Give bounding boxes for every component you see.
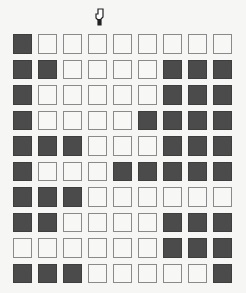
game-board-grid <box>13 34 232 283</box>
grid-cell-r5-c9[interactable] <box>213 136 232 156</box>
grid-cell-r3-c8[interactable] <box>188 85 207 105</box>
grid-cell-r8-c8[interactable] <box>188 213 207 233</box>
grid-cell-r6-c8[interactable] <box>188 162 207 182</box>
grid-cell-r5-c2[interactable] <box>38 136 57 156</box>
grid-cell-r1-c2[interactable] <box>38 34 57 54</box>
grid-cell-r6-c4[interactable] <box>88 162 107 182</box>
grid-cell-r10-c9[interactable] <box>213 264 232 284</box>
grid-cell-r6-c1[interactable] <box>13 162 32 182</box>
grid-cell-r5-c4[interactable] <box>88 136 107 156</box>
grid-cell-r7-c6[interactable] <box>138 187 157 207</box>
grid-cell-r9-c4[interactable] <box>88 238 107 258</box>
grid-cell-r9-c6[interactable] <box>138 238 157 258</box>
grid-cell-r9-c9[interactable] <box>213 238 232 258</box>
grid-cell-r6-c9[interactable] <box>213 162 232 182</box>
grid-cell-r10-c2[interactable] <box>38 264 57 284</box>
pointer-hand-icon <box>95 8 105 26</box>
grid-cell-r1-c8[interactable] <box>188 34 207 54</box>
grid-cell-r5-c1[interactable] <box>13 136 32 156</box>
grid-cell-r5-c3[interactable] <box>63 136 82 156</box>
grid-cell-r10-c5[interactable] <box>113 264 132 284</box>
grid-cell-r2-c1[interactable] <box>13 60 32 80</box>
grid-cell-r10-c3[interactable] <box>63 264 82 284</box>
grid-cell-r10-c8[interactable] <box>188 264 207 284</box>
grid-cell-r6-c6[interactable] <box>138 162 157 182</box>
grid-cell-r4-c2[interactable] <box>38 111 57 131</box>
grid-cell-r2-c4[interactable] <box>88 60 107 80</box>
grid-cell-r8-c7[interactable] <box>163 213 182 233</box>
grid-cell-r8-c4[interactable] <box>88 213 107 233</box>
grid-cell-r3-c1[interactable] <box>13 85 32 105</box>
grid-cell-r7-c8[interactable] <box>188 187 207 207</box>
grid-cell-r2-c5[interactable] <box>113 60 132 80</box>
grid-cell-r8-c1[interactable] <box>13 213 32 233</box>
grid-cell-r3-c7[interactable] <box>163 85 182 105</box>
grid-cell-r6-c7[interactable] <box>163 162 182 182</box>
grid-cell-r8-c5[interactable] <box>113 213 132 233</box>
grid-cell-r2-c6[interactable] <box>138 60 157 80</box>
grid-cell-r9-c8[interactable] <box>188 238 207 258</box>
grid-cell-r7-c2[interactable] <box>38 187 57 207</box>
grid-cell-r2-c7[interactable] <box>163 60 182 80</box>
grid-cell-r5-c5[interactable] <box>113 136 132 156</box>
grid-cell-r4-c7[interactable] <box>163 111 182 131</box>
grid-cell-r10-c7[interactable] <box>163 264 182 284</box>
grid-cell-r1-c7[interactable] <box>163 34 182 54</box>
grid-cell-r3-c9[interactable] <box>213 85 232 105</box>
grid-cell-r7-c4[interactable] <box>88 187 107 207</box>
grid-cell-r7-c5[interactable] <box>113 187 132 207</box>
grid-cell-r9-c5[interactable] <box>113 238 132 258</box>
grid-cell-r3-c6[interactable] <box>138 85 157 105</box>
grid-cell-r8-c3[interactable] <box>63 213 82 233</box>
grid-cell-r6-c2[interactable] <box>38 162 57 182</box>
grid-cell-r2-c8[interactable] <box>188 60 207 80</box>
grid-cell-r4-c9[interactable] <box>213 111 232 131</box>
grid-cell-r7-c7[interactable] <box>163 187 182 207</box>
grid-cell-r8-c9[interactable] <box>213 213 232 233</box>
grid-cell-r10-c1[interactable] <box>13 264 32 284</box>
grid-cell-r6-c5[interactable] <box>113 162 132 182</box>
grid-cell-r4-c3[interactable] <box>63 111 82 131</box>
grid-cell-r2-c9[interactable] <box>213 60 232 80</box>
grid-cell-r4-c4[interactable] <box>88 111 107 131</box>
grid-cell-r6-c3[interactable] <box>63 162 82 182</box>
grid-cell-r5-c6[interactable] <box>138 136 157 156</box>
grid-cell-r1-c9[interactable] <box>213 34 232 54</box>
grid-cell-r9-c1[interactable] <box>13 238 32 258</box>
grid-cell-r5-c8[interactable] <box>188 136 207 156</box>
grid-cell-r10-c4[interactable] <box>88 264 107 284</box>
grid-cell-r8-c6[interactable] <box>138 213 157 233</box>
grid-cell-r1-c1[interactable] <box>13 34 32 54</box>
grid-cell-r8-c2[interactable] <box>38 213 57 233</box>
grid-cell-r7-c1[interactable] <box>13 187 32 207</box>
grid-cell-r9-c3[interactable] <box>63 238 82 258</box>
grid-cell-r3-c2[interactable] <box>38 85 57 105</box>
grid-cell-r1-c4[interactable] <box>88 34 107 54</box>
grid-cell-r4-c6[interactable] <box>138 111 157 131</box>
grid-cell-r3-c4[interactable] <box>88 85 107 105</box>
grid-cell-r2-c2[interactable] <box>38 60 57 80</box>
grid-cell-r3-c5[interactable] <box>113 85 132 105</box>
grid-cell-r3-c3[interactable] <box>63 85 82 105</box>
grid-cell-r4-c5[interactable] <box>113 111 132 131</box>
grid-cell-r9-c2[interactable] <box>38 238 57 258</box>
grid-cell-r1-c6[interactable] <box>138 34 157 54</box>
grid-cell-r4-c8[interactable] <box>188 111 207 131</box>
grid-cell-r10-c6[interactable] <box>138 264 157 284</box>
grid-cell-r4-c1[interactable] <box>13 111 32 131</box>
grid-cell-r5-c7[interactable] <box>163 136 182 156</box>
grid-cell-r1-c3[interactable] <box>63 34 82 54</box>
grid-cell-r9-c7[interactable] <box>163 238 182 258</box>
grid-cell-r2-c3[interactable] <box>63 60 82 80</box>
grid-cell-r7-c9[interactable] <box>213 187 232 207</box>
grid-cell-r7-c3[interactable] <box>63 187 82 207</box>
grid-cell-r1-c5[interactable] <box>113 34 132 54</box>
